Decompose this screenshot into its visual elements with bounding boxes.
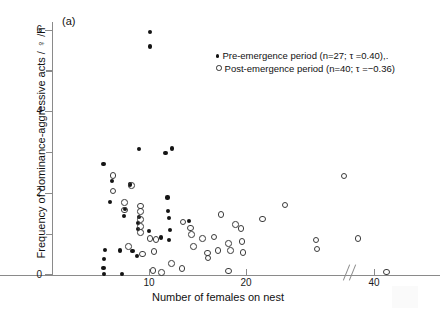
data-point-post-emergence xyxy=(205,255,212,262)
data-point-post-emergence xyxy=(139,251,146,258)
legend-entry-post-emergence: Post-emergence period (n=40; τ =−0.36) xyxy=(216,63,395,76)
filled-circle-icon xyxy=(216,54,219,57)
legend-label-post-emergence: Post-emergence period (n=40; τ =−0.36) xyxy=(225,63,395,74)
data-point-pre-emergence xyxy=(187,219,191,223)
data-point-post-emergence xyxy=(215,247,222,254)
data-point-post-emergence xyxy=(188,231,195,238)
y-axis-title: Frequency of dominance-aggressive acts /… xyxy=(35,18,47,268)
data-point-post-emergence xyxy=(179,265,186,272)
data-point-pre-emergence xyxy=(122,214,126,218)
data-point-pre-emergence xyxy=(101,162,105,166)
data-point-post-emergence xyxy=(168,260,175,267)
data-point-pre-emergence xyxy=(148,30,152,34)
data-point-post-emergence xyxy=(383,269,390,276)
data-point-pre-emergence xyxy=(110,179,114,183)
data-point-post-emergence xyxy=(227,247,234,254)
data-point-post-emergence xyxy=(180,219,187,226)
data-point-post-emergence xyxy=(240,249,247,256)
x-tick-label-40: 40 xyxy=(362,277,386,288)
data-point-post-emergence xyxy=(225,268,232,275)
data-point-pre-emergence xyxy=(108,200,112,204)
data-point-post-emergence xyxy=(128,182,135,189)
data-point-pre-emergence xyxy=(147,229,151,233)
data-point-post-emergence xyxy=(158,269,165,276)
data-point-post-emergence xyxy=(238,225,245,232)
data-point-pre-emergence xyxy=(159,235,163,239)
open-circle-icon xyxy=(216,65,222,71)
legend: Pre-emergence period (n=27; τ =0.40),. P… xyxy=(216,50,395,75)
data-point-pre-emergence xyxy=(137,147,141,151)
data-point-pre-emergence xyxy=(148,44,152,48)
data-point-post-emergence xyxy=(341,173,348,180)
data-point-post-emergence xyxy=(211,234,218,241)
data-point-post-emergence xyxy=(125,243,132,250)
data-point-post-emergence xyxy=(232,221,239,228)
legend-entry-pre-emergence: Pre-emergence period (n=27; τ =0.40),. xyxy=(216,50,395,63)
data-point-post-emergence xyxy=(199,235,206,242)
data-point-pre-emergence xyxy=(166,209,170,213)
legend-label-pre-emergence: Pre-emergence period (n=27; τ =0.40),. xyxy=(222,50,388,61)
x-tick-label-10: 10 xyxy=(137,277,161,288)
data-point-post-emergence xyxy=(313,237,320,244)
scan-artifact xyxy=(392,286,418,308)
data-point-pre-emergence xyxy=(170,146,174,150)
x-tick-label-20: 20 xyxy=(234,277,258,288)
y-axis-line xyxy=(52,22,53,275)
y-tick-0 xyxy=(45,274,52,275)
panel-label: (a) xyxy=(62,15,75,27)
data-point-post-emergence xyxy=(110,172,117,179)
data-point-post-emergence xyxy=(137,216,144,223)
x-tick-20 xyxy=(246,269,247,275)
data-point-pre-emergence xyxy=(102,257,106,261)
y-tick-label-0: 0 xyxy=(28,269,42,280)
data-point-post-emergence xyxy=(153,236,160,243)
data-point-post-emergence xyxy=(150,267,157,274)
data-point-post-emergence xyxy=(110,188,117,195)
data-point-pre-emergence xyxy=(163,151,167,155)
data-point-post-emergence xyxy=(137,208,144,215)
data-point-post-emergence xyxy=(239,238,246,245)
data-point-post-emergence xyxy=(190,243,197,250)
data-point-post-emergence xyxy=(151,248,158,255)
data-point-post-emergence xyxy=(218,211,225,218)
x-tick-40 xyxy=(374,269,375,275)
data-point-pre-emergence xyxy=(167,238,171,242)
data-point-post-emergence xyxy=(355,235,362,242)
data-point-pre-emergence xyxy=(167,216,171,220)
data-point-pre-emergence xyxy=(165,195,169,199)
figure-panel: 0246102040 (a) Frequency of dominance-ag… xyxy=(0,0,447,323)
data-point-post-emergence xyxy=(137,229,144,236)
axis-break-icon xyxy=(343,264,359,282)
data-point-pre-emergence xyxy=(101,266,105,270)
data-point-post-emergence xyxy=(282,202,289,209)
data-point-pre-emergence xyxy=(130,249,134,253)
x-axis-title: Number of females on nest xyxy=(108,291,328,303)
data-point-post-emergence xyxy=(259,216,266,223)
data-point-post-emergence xyxy=(121,207,128,214)
data-point-post-emergence xyxy=(121,199,128,206)
data-point-pre-emergence xyxy=(103,248,107,252)
data-point-pre-emergence xyxy=(168,228,172,232)
data-point-pre-emergence xyxy=(118,248,122,252)
data-point-post-emergence xyxy=(225,240,232,247)
data-point-post-emergence xyxy=(314,246,321,253)
